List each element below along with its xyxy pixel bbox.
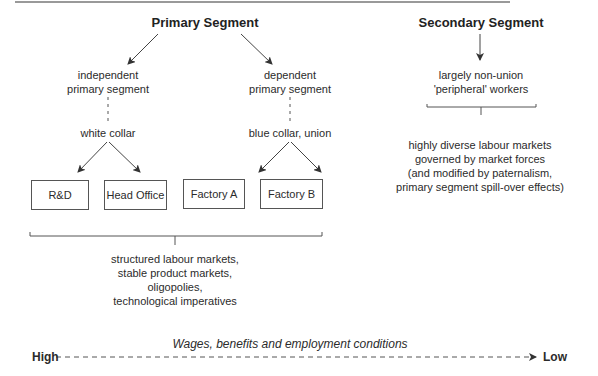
independent-primary-label: independent primary segment [67,68,149,96]
primary-char-line: stable product markets, [111,266,239,280]
box-rd: R&D [31,180,89,210]
secondary-char-line: primary segment spill-over effects) [396,180,564,194]
primary-char-line: technological imperatives [111,294,239,308]
arrow-to-independent [128,34,158,64]
arrow-to-dependent [241,34,272,64]
box-head-office-label: Head Office [107,189,165,201]
secondary-characteristics: highly diverse labour markets governed b… [396,138,564,194]
blue-collar-label: blue collar, union [249,126,332,140]
primary-char-line: structured labour markets, [111,252,239,266]
secondary-workers-label: largely non-union 'peripheral' workers [434,68,529,96]
axis-high-label: High [32,350,59,364]
secondary-char-line: (and modified by paternalism, [396,166,564,180]
primary-characteristics: structured labour markets, stable produc… [111,252,239,308]
arrow-to-factory-a [259,142,289,172]
dependent-primary-label: dependent primary segment [249,68,331,96]
box-head-office: Head Office [104,180,167,210]
box-factory-b-label: Factory B [268,188,315,200]
white-collar-label: white collar [80,126,135,140]
secondary-workers-line2: 'peripheral' workers [434,82,529,96]
arrow-to-rd [78,142,107,172]
secondary-char-line: governed by market forces [396,152,564,166]
dependent-line1: dependent [249,68,331,82]
secondary-workers-line1: largely non-union [434,68,529,82]
box-factory-b: Factory B [260,179,323,209]
arrow-to-factory-b [291,142,321,172]
axis-low-label: Low [543,350,567,364]
secondary-segment-title: Secondary Segment [419,15,544,30]
secondary-char-line: highly diverse labour markets [396,138,564,152]
primary-char-line: oligopolies, [111,280,239,294]
independent-line1: independent [67,68,149,82]
box-factory-a-label: Factory A [191,188,237,200]
secondary-bracket [427,104,536,107]
primary-bracket [30,232,322,236]
independent-line2: primary segment [67,82,149,96]
box-rd-label: R&D [48,189,71,201]
axis-caption: Wages, benefits and employment condition… [172,337,407,351]
dependent-line2: primary segment [249,82,331,96]
box-factory-a: Factory A [183,179,245,209]
primary-segment-title: Primary Segment [152,15,259,30]
arrow-to-head-office [109,142,140,172]
